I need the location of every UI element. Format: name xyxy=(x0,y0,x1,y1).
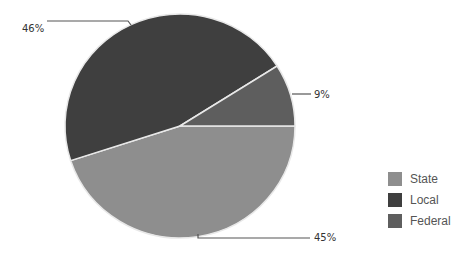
pie-slices xyxy=(65,14,295,238)
legend-label-local: Local xyxy=(410,193,439,207)
legend: State Local Federal xyxy=(388,168,451,231)
legend-swatch-local xyxy=(388,193,402,207)
leader-line-state xyxy=(198,234,310,238)
legend-swatch-state xyxy=(388,172,402,186)
legend-item-federal: Federal xyxy=(388,210,451,231)
data-label-state: 45% xyxy=(314,232,336,243)
legend-label-federal: Federal xyxy=(410,214,451,228)
data-label-federal: 9% xyxy=(314,89,330,100)
legend-swatch-federal xyxy=(388,214,402,228)
legend-item-state: State xyxy=(388,168,451,189)
legend-label-state: State xyxy=(410,172,438,186)
legend-item-local: Local xyxy=(388,189,451,210)
leader-line-local xyxy=(47,21,131,25)
data-label-local: 46% xyxy=(22,23,44,34)
